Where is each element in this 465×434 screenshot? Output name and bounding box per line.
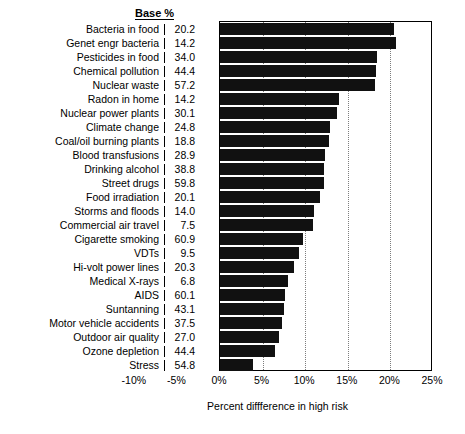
base-percent-value: 28.9 bbox=[164, 150, 204, 161]
base-percent-value: 60.9 bbox=[164, 234, 204, 245]
x-tick-label: -5% bbox=[167, 374, 186, 386]
category-label: Chemical pollution bbox=[0, 66, 164, 77]
category-label: Blood transfusions bbox=[0, 150, 164, 161]
table-row: Bacteria in food20.2 bbox=[0, 22, 204, 36]
category-label: Hi-volt power lines bbox=[0, 262, 164, 273]
base-percent-value: 60.1 bbox=[164, 290, 204, 301]
base-percent-value: 30.1 bbox=[164, 108, 204, 119]
category-label: Storms and floods bbox=[0, 206, 164, 217]
base-percent-column-header-text: Base % bbox=[135, 7, 174, 20]
category-label: Drinking alcohol bbox=[0, 164, 164, 175]
bar bbox=[220, 149, 325, 160]
table-row: Cigarette smoking60.9 bbox=[0, 232, 204, 246]
category-label: Climate change bbox=[0, 122, 164, 133]
bar bbox=[220, 317, 282, 328]
base-percent-value: 14.2 bbox=[164, 94, 204, 105]
category-label: Medical X-rays bbox=[0, 276, 164, 287]
category-label: Cigarette smoking bbox=[0, 234, 164, 245]
x-tick-label: 0% bbox=[211, 374, 226, 386]
base-percent-value: 44.4 bbox=[164, 346, 204, 357]
base-percent-value: 54.8 bbox=[164, 360, 204, 371]
category-label: Radon in home bbox=[0, 94, 164, 105]
base-percent-value: 18.8 bbox=[164, 136, 204, 147]
bar bbox=[220, 345, 275, 356]
x-tick-label: 25% bbox=[421, 374, 442, 386]
bar bbox=[220, 177, 324, 188]
category-label: Genet engr bacteria bbox=[0, 38, 164, 49]
bar-chart: Base % Bacteria in food20.2Genet engr ba… bbox=[0, 0, 465, 434]
table-row: Drinking alcohol38.8 bbox=[0, 162, 204, 176]
base-percent-value: 20.3 bbox=[164, 262, 204, 273]
bar bbox=[220, 23, 394, 34]
bar bbox=[220, 121, 330, 132]
table-row: Radon in home14.2 bbox=[0, 92, 204, 106]
bar bbox=[220, 247, 299, 258]
x-axis-tick-labels: -10%-5%0%5%10%15%20%25% bbox=[0, 374, 465, 388]
category-label: Coal/oil burning plants bbox=[0, 136, 164, 147]
table-row: Pesticides in food34.0 bbox=[0, 50, 204, 64]
x-tick-label: -10% bbox=[122, 374, 147, 386]
category-label: Commercial air travel bbox=[0, 220, 164, 231]
bar bbox=[220, 219, 313, 230]
base-percent-value: 24.8 bbox=[164, 122, 204, 133]
bar bbox=[220, 163, 324, 174]
bar bbox=[220, 303, 284, 314]
base-percent-value: 34.0 bbox=[164, 52, 204, 63]
table-row: Suntanning43.1 bbox=[0, 302, 204, 316]
bar bbox=[220, 289, 285, 300]
category-label: Pesticides in food bbox=[0, 52, 164, 63]
bar bbox=[220, 135, 329, 146]
table-row: Motor vehicle accidents37.5 bbox=[0, 316, 204, 330]
category-label: Nuclear power plants bbox=[0, 108, 164, 119]
bar bbox=[220, 37, 396, 48]
bar bbox=[220, 261, 294, 272]
bar bbox=[220, 79, 375, 90]
table-row: Hi-volt power lines20.3 bbox=[0, 260, 204, 274]
x-axis-title-text: Percent diffference in high risk bbox=[207, 400, 348, 412]
bar bbox=[220, 205, 314, 216]
category-label: Nuclear waste bbox=[0, 80, 164, 91]
bar bbox=[220, 331, 279, 342]
table-row: Blood transfusions28.9 bbox=[0, 148, 204, 162]
base-percent-value: 7.5 bbox=[164, 220, 204, 231]
table-row: AIDS60.1 bbox=[0, 288, 204, 302]
table-row: Coal/oil burning plants18.8 bbox=[0, 134, 204, 148]
bar bbox=[220, 107, 337, 118]
base-percent-value: 9.5 bbox=[164, 248, 204, 259]
category-label: Street drugs bbox=[0, 178, 164, 189]
table-row: Stress54.8 bbox=[0, 358, 204, 372]
base-percent-value: 27.0 bbox=[164, 332, 204, 343]
category-label: Stress bbox=[0, 360, 164, 371]
bar bbox=[220, 359, 253, 370]
category-value-table: Bacteria in food20.2Genet engr bacteria1… bbox=[0, 22, 204, 370]
table-row: Nuclear waste57.2 bbox=[0, 78, 204, 92]
bar bbox=[220, 65, 376, 76]
base-percent-column-header: Base % bbox=[135, 7, 205, 19]
base-percent-value: 59.8 bbox=[164, 178, 204, 189]
table-row: Genet engr bacteria14.2 bbox=[0, 36, 204, 50]
bar bbox=[220, 233, 303, 244]
table-row: Commercial air travel7.5 bbox=[0, 218, 204, 232]
table-row: Street drugs59.8 bbox=[0, 176, 204, 190]
category-label: Ozone depletion bbox=[0, 346, 164, 357]
table-row: Food irradiation20.1 bbox=[0, 190, 204, 204]
x-tick-label: 10% bbox=[294, 374, 315, 386]
base-percent-value: 44.4 bbox=[164, 66, 204, 77]
base-percent-value: 57.2 bbox=[164, 80, 204, 91]
bar bbox=[220, 275, 288, 286]
base-percent-value: 37.5 bbox=[164, 318, 204, 329]
category-label: Bacteria in food bbox=[0, 24, 164, 35]
category-label: Food irradiation bbox=[0, 192, 164, 203]
category-label: VDTs bbox=[0, 248, 164, 259]
base-percent-value: 20.2 bbox=[164, 24, 204, 35]
bar bbox=[220, 191, 320, 202]
category-label: Motor vehicle accidents bbox=[0, 318, 164, 329]
table-row: Storms and floods14.0 bbox=[0, 204, 204, 218]
table-row: Climate change24.8 bbox=[0, 120, 204, 134]
base-percent-value: 14.0 bbox=[164, 206, 204, 217]
base-percent-value: 14.2 bbox=[164, 38, 204, 49]
x-tick-label: 5% bbox=[254, 374, 269, 386]
table-row: Outdoor air quality27.0 bbox=[0, 330, 204, 344]
category-label: AIDS bbox=[0, 290, 164, 301]
base-percent-value: 20.1 bbox=[164, 192, 204, 203]
